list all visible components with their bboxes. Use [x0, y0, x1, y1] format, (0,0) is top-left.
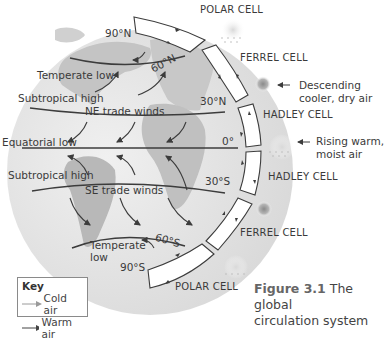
- note-descending-2: cooler, dry air: [299, 92, 372, 104]
- caption-line-2: circulation system: [254, 313, 368, 328]
- cold-air-arrow-icon: [22, 301, 42, 307]
- key-title: Key: [22, 280, 83, 292]
- label-ferrel-cell-south: FERREL CELL: [240, 228, 308, 238]
- figure-number: Figure 3.1: [254, 281, 326, 296]
- latitude-30n: 30°N: [200, 96, 226, 107]
- cloud-icon: [221, 18, 245, 42]
- note-rising-1: Rising warm,: [316, 135, 384, 147]
- latitude-90s: 90°S: [120, 262, 145, 273]
- latitude-30s: 30°S: [205, 176, 230, 187]
- key-warm-label: Warm air: [41, 316, 83, 340]
- label-temperate-low-south-1: Temperate: [90, 240, 146, 251]
- sun-icon: [256, 201, 272, 217]
- label-equatorial-low: Equatorial low: [2, 137, 77, 148]
- label-se-trade-winds: SE trade winds: [85, 185, 163, 196]
- label-temperate-low-north: Temperate low: [37, 70, 114, 81]
- figure-caption: Figure 3.1 The global circulation system: [254, 281, 380, 329]
- label-ferrel-cell-north: FERREL CELL: [240, 53, 308, 63]
- label-hadley-cell-north: HADLEY CELL: [263, 110, 333, 120]
- label-polar-cell-south: POLAR CELL: [175, 282, 238, 292]
- key-cold-air: Cold air: [22, 292, 83, 316]
- label-ne-trade-winds: NE trade winds: [85, 106, 164, 117]
- warm-air-arrow-icon: [22, 325, 39, 331]
- key-warm-air: Warm air: [22, 316, 83, 340]
- legend-key: Key Cold air Warm air: [17, 277, 88, 317]
- sun-icon: [255, 76, 271, 92]
- label-subtropical-high-north: Subtropical high: [18, 93, 104, 104]
- label-hadley-cell-south: HADLEY CELL: [268, 172, 338, 182]
- latitude-90n: 90°N: [105, 28, 131, 39]
- label-temperate-low-south-2: low: [90, 252, 108, 263]
- label-polar-cell-north: POLAR CELL: [200, 5, 263, 15]
- note-descending-1: Descending: [299, 79, 361, 91]
- note-rising-2: moist air: [316, 148, 362, 160]
- key-cold-label: Cold air: [44, 292, 83, 316]
- label-subtropical-high-south: Subtropical high: [8, 170, 94, 181]
- cloud-icon: [224, 255, 248, 279]
- latitude-equator: 0°: [222, 136, 234, 147]
